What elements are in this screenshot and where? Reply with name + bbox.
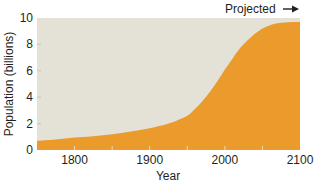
x-axis-title: Year	[156, 169, 180, 183]
x-tick-label: 2000	[212, 153, 239, 167]
x-tick-label: 1900	[136, 153, 163, 167]
x-tick-label: 2100	[287, 153, 314, 167]
population-area-chart: 1800190020002100 0246810 Year Population…	[0, 0, 316, 186]
y-tick-label: 8	[26, 37, 33, 51]
y-tick-label: 4	[26, 90, 33, 104]
y-axis-title: Population (billions)	[2, 32, 16, 137]
arrow-right-icon	[283, 6, 299, 13]
projected-label: Projected	[225, 2, 276, 16]
y-tick-label: 0	[26, 143, 33, 157]
x-tick-label: 1800	[61, 153, 88, 167]
projected-annotation: Projected	[225, 2, 299, 16]
y-tick-label: 2	[26, 117, 33, 131]
y-tick-label: 6	[26, 64, 33, 78]
y-tick-label: 10	[20, 11, 34, 25]
